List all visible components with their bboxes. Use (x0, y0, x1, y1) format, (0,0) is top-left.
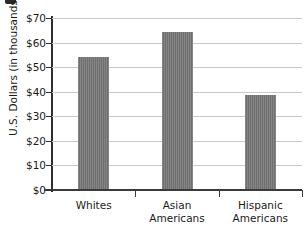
y-axis-tick-mark (46, 116, 52, 117)
y-axis-tick-mark (46, 190, 52, 191)
bar-chart-figure: U.S. Dollars (in thousands) $70$60$50$40… (0, 0, 308, 230)
y-axis-tick-label: $70 (2, 13, 46, 23)
bar (162, 32, 193, 190)
y-axis-tick-label: $50 (2, 62, 46, 72)
x-axis-category-line: Hispanic (214, 199, 306, 212)
y-axis-tick-label: $0 (2, 185, 46, 195)
y-axis-tick-label: $10 (2, 160, 46, 170)
x-axis-category-line: Asian (131, 199, 223, 212)
bar (78, 57, 109, 190)
x-axis-end-tick-mark (302, 190, 303, 197)
y-axis-tick-label: $60 (2, 38, 46, 48)
x-axis-baseline (44, 189, 302, 191)
y-axis-tick-mark (46, 67, 52, 68)
gridline (52, 18, 302, 19)
x-axis-category-line: Americans (214, 212, 306, 225)
y-axis-tick-mark (46, 165, 52, 166)
y-axis-tick-label: $30 (2, 111, 46, 121)
x-axis-category-label: HispanicAmericans (214, 199, 306, 224)
y-axis-tick-mark (46, 141, 52, 142)
x-axis-tick-mark (135, 190, 136, 197)
y-axis-tick-mark (46, 92, 52, 93)
bar (245, 95, 276, 190)
x-axis-tick-mark (219, 190, 220, 197)
y-axis-tick-labels: $70$60$50$40$30$20$10$0 (0, 0, 46, 230)
plot-area (52, 18, 302, 190)
y-axis-tick-mark (46, 43, 52, 44)
y-axis-tick-label: $40 (2, 87, 46, 97)
y-axis-tick-label: $20 (2, 136, 46, 146)
x-axis-category-label: AsianAmericans (131, 199, 223, 224)
x-axis-category-label: Whites (48, 199, 140, 212)
x-axis-category-line: Whites (48, 199, 140, 212)
x-axis-category-line: Americans (131, 212, 223, 225)
y-axis-tick-mark (46, 18, 52, 19)
